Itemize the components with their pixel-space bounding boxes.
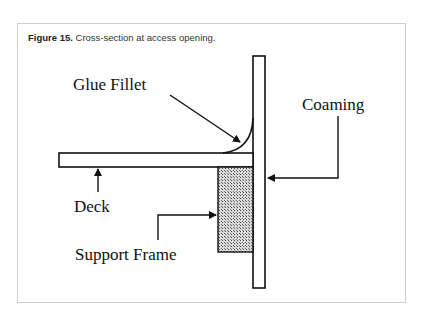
glue-fillet-curve	[223, 118, 253, 153]
glue-fillet-label: Glue Fillet	[73, 75, 146, 94]
support-frame-block	[218, 167, 253, 252]
coaming-label: Coaming	[302, 95, 365, 114]
deck-label: Deck	[74, 197, 110, 216]
coaming-plank	[253, 56, 265, 288]
support-frame-leader-line	[158, 215, 216, 240]
cross-section-diagram: Glue Fillet Coaming Deck Support Frame	[0, 0, 427, 313]
glue-fillet-arrow	[170, 95, 240, 142]
deck-plank	[59, 153, 253, 167]
support-frame-label: Support Frame	[75, 245, 177, 264]
coaming-leader-line	[268, 116, 338, 178]
